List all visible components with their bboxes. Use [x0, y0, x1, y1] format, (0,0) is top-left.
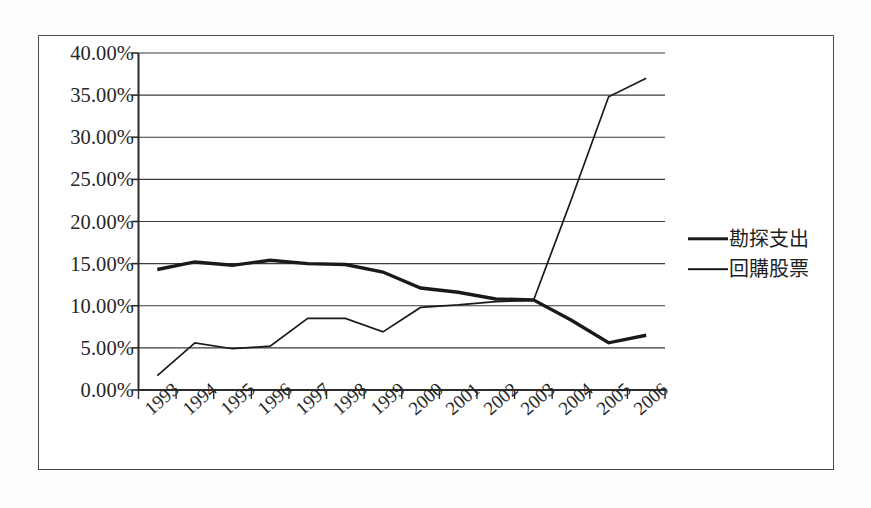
x-axis-tick-label: 1994	[179, 379, 220, 418]
legend-line-icon-series-1	[688, 233, 728, 245]
x-axis-tick-label: 2001	[442, 379, 483, 418]
legend-line-icon-series-2	[688, 263, 728, 275]
x-axis-tick-label: 1993	[141, 379, 182, 418]
x-axis-tick-label: 1998	[329, 379, 370, 418]
x-axis-tick-label: 1996	[254, 379, 295, 418]
x-axis-tick-label: 2003	[517, 379, 558, 418]
x-axis-tick-label: 2004	[555, 379, 596, 418]
legend-item-series-1: 勘探支出	[688, 224, 834, 254]
chart-screenshot: 0.00%5.00%10.00%15.00%20.00%25.00%30.00%…	[0, 0, 871, 508]
legend-item-series-2: 回購股票	[688, 254, 834, 284]
legend-label-series-1: 勘探支出	[729, 229, 809, 249]
x-axis-tick-label: 2000	[405, 379, 446, 418]
legend-label-series-2: 回購股票	[729, 259, 809, 279]
x-axis-tick-label: 2006	[630, 379, 671, 418]
chart-legend: 勘探支出 回購股票	[688, 224, 834, 284]
x-axis-tick-label: 1997	[292, 379, 333, 418]
x-axis-tick-label: 2005	[593, 379, 634, 418]
x-axis-tick-label: 1999	[367, 379, 408, 418]
x-axis-tick-label: 1995	[217, 379, 258, 418]
x-axis-tick-label: 2002	[480, 379, 521, 418]
